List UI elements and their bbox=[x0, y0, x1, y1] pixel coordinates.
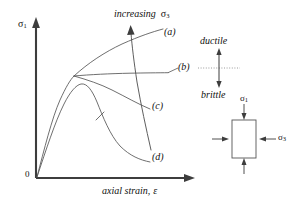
curve-common-rising-limb bbox=[37, 76, 74, 177]
x-axis-label-symbol: ε bbox=[153, 185, 157, 196]
sigma3-right-arrowhead bbox=[259, 137, 266, 142]
y-axis-arrowhead bbox=[32, 17, 40, 28]
curve-d-path bbox=[37, 84, 150, 177]
element-sigma1-subscript: 1 bbox=[245, 96, 248, 103]
sigma1-bottom-arrowhead bbox=[242, 158, 247, 165]
curve-label-c: (c) bbox=[152, 101, 163, 111]
x-axis-label-text: axial strain, bbox=[102, 185, 150, 196]
sigma3-left-arrowhead bbox=[222, 137, 229, 142]
y-axis-label: σ1 bbox=[18, 19, 27, 30]
increasing-sigma3-subscript: 3 bbox=[166, 12, 169, 19]
brittle-arrowhead bbox=[216, 81, 221, 88]
stress-element-group bbox=[212, 104, 276, 174]
axes-group bbox=[32, 17, 195, 182]
curve-label-a: (a) bbox=[164, 27, 176, 37]
curve-label-d: (d) bbox=[152, 152, 164, 162]
ductile-brittle-marker bbox=[198, 48, 240, 88]
element-sigma1-label: σ1 bbox=[240, 94, 248, 104]
stress-strain-figure: σ1 0 axial strain,ε increasingσ3 (a) (b)… bbox=[0, 0, 293, 208]
sigma1-top-arrowhead bbox=[242, 113, 247, 120]
increasing-sigma3-arrowhead bbox=[127, 25, 135, 35]
x-axis-arrowhead bbox=[184, 174, 195, 182]
ductile-arrowhead bbox=[216, 48, 221, 55]
element-sigma3-subscript: 3 bbox=[283, 135, 286, 142]
increasing-sigma3-trajectory bbox=[131, 33, 151, 150]
ductile-label: ductile bbox=[200, 36, 227, 46]
brittle-label: brittle bbox=[201, 90, 225, 100]
increasing-sigma3-label: increasingσ3 bbox=[114, 9, 170, 20]
curve-label-b: (b) bbox=[178, 62, 190, 72]
curve-b-leader-line bbox=[168, 68, 178, 73]
curves-group bbox=[37, 25, 168, 177]
increasing-sigma3-text: increasing bbox=[114, 8, 156, 19]
figure-canvas bbox=[0, 0, 293, 208]
element-sigma3-label: σ3 bbox=[278, 133, 286, 143]
origin-label: 0 bbox=[25, 170, 30, 179]
x-axis-label: axial strain,ε bbox=[102, 186, 157, 196]
y-axis-label-subscript: 1 bbox=[23, 22, 26, 29]
curve-b-path bbox=[74, 73, 168, 76]
specimen-rectangle bbox=[232, 120, 256, 158]
curve-a-path bbox=[74, 29, 163, 76]
